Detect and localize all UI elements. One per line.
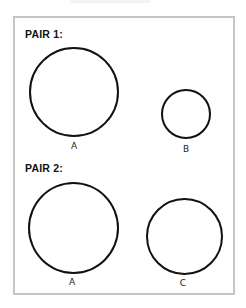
pair-1-circle-b [161, 89, 211, 139]
pair-2-circle-a [28, 182, 119, 274]
pair-2-circle-a-label: A [69, 278, 75, 287]
pair-1-circle-a-label: A [71, 142, 77, 151]
pair-2-circle-c-label: C [180, 279, 186, 288]
pair-2-title: PAIR 2: [25, 163, 63, 174]
pair-1-title: PAIR 1: [25, 29, 63, 40]
pair-2-circle-c [146, 198, 223, 275]
top-edge-strip [70, 0, 150, 3]
pair-1-circle-b-label: B [183, 145, 189, 154]
pair-1-circle-a [29, 47, 119, 137]
